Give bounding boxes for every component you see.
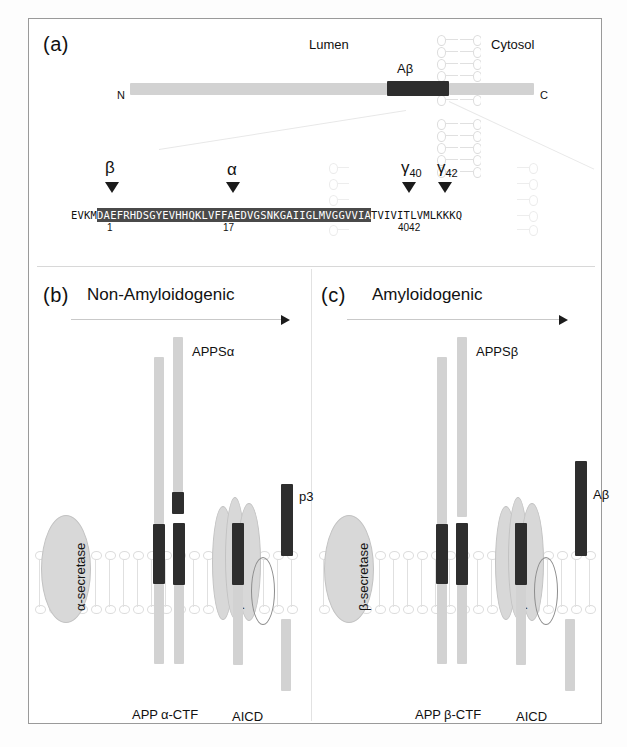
panel-a-helix-left	[329, 159, 371, 239]
cleavage-site-gamma40-arrow	[402, 182, 416, 193]
panel-a-guide-left	[159, 110, 406, 150]
panel-c-aicd-bar	[565, 619, 575, 691]
panel-b-gamma-substrate-abeta	[232, 523, 244, 585]
panel-c-app-ecto-bar	[437, 357, 447, 524]
cleavage-site-alpha-label: α	[227, 160, 237, 180]
panel-c-beta-secretase-label: β-secretase	[356, 543, 371, 611]
panel-b-alpha-secretase-label: α-secretase	[73, 543, 88, 611]
panel-b-title: Non-Amyloidogenic	[87, 285, 234, 305]
panel-c-aicd-label: AICD	[516, 709, 547, 724]
panel-c-pathway-arrow-line	[347, 319, 561, 320]
panel-c-bctf-label: β-CTF	[444, 707, 481, 722]
sequence-suffix: TVIVITLVMLKKKQ	[371, 209, 462, 221]
panel-c-nicastrin-ellipse	[534, 557, 558, 625]
sequence-number-17: 17	[223, 222, 234, 233]
panel-b-app-icd-bar	[154, 584, 164, 664]
panel-a-abeta-label: Aβ	[397, 61, 413, 76]
sequence-abeta-highlight: DAEFRHDSGYEVHHQKLVFFAEDVGSNKGAIIGLMVGGVV…	[97, 208, 371, 222]
panel-b-p3-label: p3	[299, 489, 313, 504]
panel-b-appsalpha-label: APPSα	[192, 344, 234, 359]
panel-c-abeta-label: Aβ	[593, 487, 609, 502]
panel-b-app-label: APP	[132, 707, 158, 722]
panel-b-actf-icd-bar	[174, 585, 184, 664]
panel-a-sequence: EVKMDAEFRHDSGYEVHHQKLVFFAEDVGSNKGAIIGLMV…	[71, 209, 462, 221]
figure-root: (a) Lumen Cytosol	[0, 0, 627, 747]
panel-b-pathway-arrow-line	[71, 319, 283, 320]
panel-a-c-terminus: C	[540, 89, 548, 101]
cleavage-site-gamma40-label: γ40	[401, 158, 422, 179]
panel-a-bottom-divider	[37, 266, 595, 267]
panel-c-gamma-substrate-abeta	[515, 523, 527, 585]
panel-c-gamma-substrate-icd	[516, 585, 526, 665]
panel-b-app-ecto-bar	[154, 357, 164, 524]
panel-c-app-abeta-bar	[436, 524, 448, 584]
panel-c-title: Amyloidogenic	[372, 285, 483, 305]
panel-b-nicastrin-ellipse	[251, 557, 275, 625]
panel-b-p3-bar	[281, 484, 293, 556]
panel-b-appsalpha-tip	[172, 492, 184, 514]
panel-b-letter: (b)	[43, 284, 69, 307]
cleavage-site-beta-arrow	[105, 182, 119, 193]
panel-a-app-ectodomain-bar	[130, 83, 387, 95]
panel-c-app-label: APP	[415, 707, 441, 722]
panel-b-appsalpha-bar	[173, 337, 183, 492]
cleavage-site-gamma42-arrow	[438, 182, 452, 193]
panel-a-helix-right	[499, 159, 541, 239]
panel-c-appsbeta-label: APPSβ	[476, 344, 518, 359]
panel-b-aicd-bar	[281, 619, 291, 691]
panel-b-pathway-arrow-head	[281, 315, 290, 325]
figure-frame: (a) Lumen Cytosol	[28, 18, 602, 724]
panel-a-lumen-label: Lumen	[309, 37, 349, 52]
panel-c-app-icd-bar	[437, 584, 447, 664]
cleavage-site-gamma42-label: γ42	[437, 158, 458, 179]
panel-b-app-abeta-bar	[153, 524, 165, 584]
panel-a-cytosol-label: Cytosol	[491, 37, 534, 52]
panel-b-gamma-substrate-icd	[233, 585, 243, 665]
panel-a-app-cytoplasmic-bar	[449, 83, 534, 95]
panel-c-appsbeta-bar	[457, 337, 467, 517]
panel-c-bctf-abeta-bar	[456, 523, 468, 585]
cleavage-site-alpha-arrow	[226, 182, 240, 193]
panel-c-pathway-arrow-head	[559, 315, 568, 325]
sequence-prefix: EVKM	[71, 209, 97, 221]
sequence-number-1: 1	[107, 222, 113, 233]
panel-c-bctf-icd-bar	[457, 585, 467, 664]
panel-a-abeta-bar	[387, 81, 449, 96]
cleavage-site-beta-label: β	[105, 158, 115, 178]
panel-b-actf-label: α-CTF	[161, 707, 198, 722]
panel-b-aicd-label: AICD	[232, 709, 263, 724]
sequence-number-4042: 4042	[398, 222, 420, 233]
panel-a-n-terminus: N	[117, 89, 125, 101]
panel-b-actf-abeta-bar	[173, 523, 185, 585]
panel-c-letter: (c)	[321, 284, 346, 307]
panel-c-abeta-bar	[575, 461, 587, 556]
panel-a-letter: (a)	[43, 33, 69, 56]
